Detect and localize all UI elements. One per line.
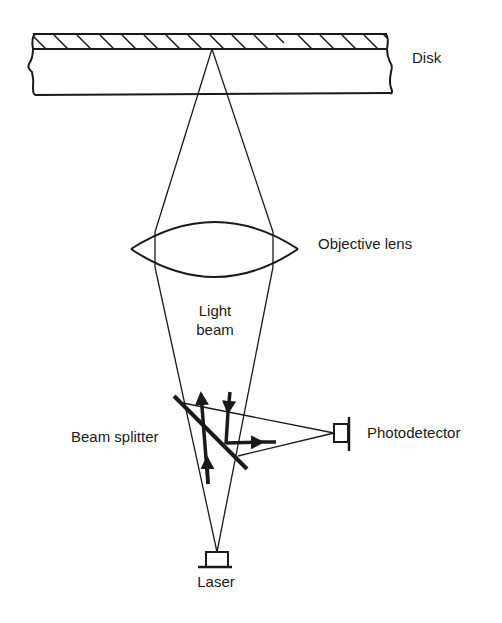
disk: [28, 34, 392, 95]
diagram-canvas: [0, 0, 502, 623]
light-beam-label-line1: Light: [199, 302, 232, 320]
right-arrow-icon: [226, 442, 262, 443]
beam-direction-arrows: [201, 392, 276, 484]
photodetector-label: Photodetector: [367, 424, 460, 442]
objective-lens-label: Objective lens: [318, 235, 412, 253]
laser-label: Laser: [197, 573, 235, 591]
beam-splitter-plate: [174, 396, 247, 469]
focused-beam-upper: [155, 49, 273, 232]
down-arrow-icon: [228, 392, 230, 412]
disk-label: Disk: [412, 49, 441, 67]
beam-through-lens: [155, 232, 273, 267]
photodetector-icon: [334, 417, 349, 451]
up-arrow-lower-icon: [207, 458, 208, 484]
beam-splitter-label: Beam splitter: [71, 428, 159, 446]
disk-hatching: [34, 34, 387, 49]
light-beam-label-line2: beam: [196, 321, 234, 339]
laser-icon: [198, 552, 232, 567]
